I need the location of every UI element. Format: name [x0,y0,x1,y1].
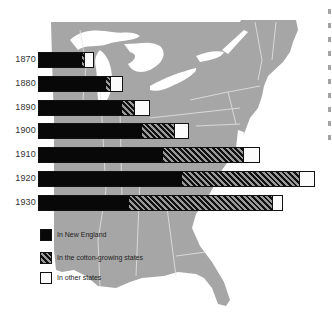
bar-1920 [38,171,315,187]
segment-cotton-states [182,172,299,186]
segment-new-england [39,172,182,186]
segment-new-england [39,101,122,115]
segment-other-states [110,77,122,91]
legend-swatch-white [40,272,52,284]
adjacent-page-text-fragment [328,0,332,170]
segment-new-england [39,124,142,138]
year-label-1910: 1910 [14,149,36,159]
segment-cotton-states [129,196,272,210]
bar-1910 [38,147,260,163]
legend-swatch-hatched [40,252,52,264]
year-label-1900: 1900 [14,125,36,135]
bar-1900 [38,123,189,139]
legend-label: In other states [57,274,101,281]
segment-other-states [243,148,259,162]
segment-other-states [84,53,93,67]
segment-other-states [299,172,314,186]
bar-1870 [38,52,94,68]
segment-new-england [39,196,129,210]
segment-other-states [134,101,149,115]
segment-other-states [174,124,188,138]
legend-item-new-england: In New England [40,228,106,241]
bar-1880 [38,76,123,92]
segment-new-england [39,148,163,162]
legend-label: In the cotton-growing states [57,254,143,261]
segment-new-england [39,53,82,67]
segment-cotton-states [122,101,134,115]
year-label-1870: 1870 [14,54,36,64]
year-label-1920: 1920 [14,173,36,183]
bar-1930 [38,195,283,211]
year-label-1880: 1880 [14,78,36,88]
legend-item-other-states: In other states [40,271,101,284]
segment-other-states [272,196,282,210]
legend-label: In New England [57,231,106,238]
segment-new-england [39,77,106,91]
segment-cotton-states [163,148,243,162]
legend-swatch-solid-black [40,229,52,241]
bar-1890 [38,100,150,116]
year-label-1890: 1890 [14,102,36,112]
segment-cotton-states [142,124,174,138]
legend-item-cotton-states: In the cotton-growing states [40,251,143,264]
year-label-1930: 1930 [14,197,36,207]
